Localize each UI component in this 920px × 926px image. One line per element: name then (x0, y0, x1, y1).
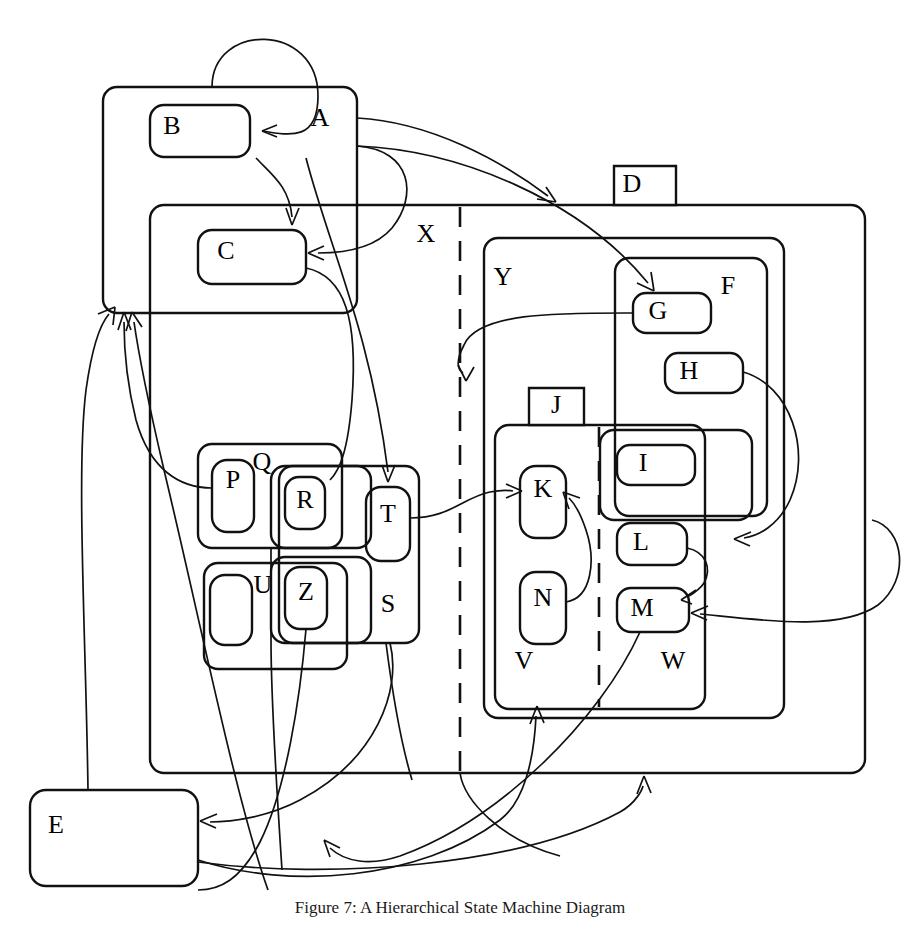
state-G[interactable]: G (633, 293, 711, 333)
edge-B-to-C (256, 158, 299, 225)
edge-layer (82, 39, 900, 890)
figure-root: D X Y F J V W A (0, 0, 920, 926)
state-G-label: G (649, 296, 668, 325)
edge-E-to-W (198, 706, 544, 876)
edge-R-down (386, 643, 412, 780)
state-O-label: P (226, 465, 240, 494)
state-C[interactable]: C (198, 230, 306, 284)
state-C-body[interactable] (198, 230, 306, 284)
edge-E-to-A-path (82, 314, 109, 790)
state-N[interactable]: N (520, 572, 566, 644)
state-U[interactable]: Z (285, 567, 327, 629)
state-S[interactable]: T (366, 487, 410, 561)
state-E[interactable]: E (30, 790, 198, 886)
state-M-label: M (630, 593, 653, 622)
edge-S-to-K (410, 484, 522, 518)
state-G-body[interactable] (633, 293, 711, 333)
state-L-body[interactable] (617, 523, 687, 565)
state-I-label: I (639, 448, 648, 477)
state-container-I-body[interactable] (600, 430, 752, 520)
edge-A-to-S-arrowhead (382, 465, 395, 482)
figure-caption: Figure 7: A Hierarchical State Machine D… (0, 898, 920, 918)
edge-E-to-A (82, 307, 115, 790)
edge-S-to-K-path (410, 490, 513, 518)
edge-E-to-D (198, 776, 651, 869)
state-J[interactable]: J V W (495, 388, 705, 709)
edge-A-to-G-arrowhead (637, 272, 654, 291)
edge-C-to-Q-path (306, 268, 353, 480)
state-T-label: U (254, 570, 273, 599)
edge-N-to-K (563, 492, 591, 602)
edge-C-to-Q (306, 268, 353, 480)
edge-Q-container-down-path (271, 548, 282, 870)
edge-R-down-path (386, 643, 412, 780)
region-X-label: W (661, 646, 686, 675)
edge-E-to-D-path (198, 786, 643, 869)
edge-Y-down (460, 773, 560, 856)
edge-M-to-U (324, 632, 640, 862)
state-V[interactable] (210, 575, 252, 645)
state-N-label: N (534, 583, 553, 612)
state-I-body[interactable] (617, 445, 695, 485)
state-R-label: S (381, 589, 395, 618)
edge-outer-to-M-path (700, 520, 900, 622)
state-Q-label: R (296, 485, 314, 514)
state-J-label: J (551, 390, 561, 419)
edge-A-to-Z-region-path (357, 118, 548, 196)
state-H-body[interactable] (665, 353, 743, 393)
edge-Y-down-path (460, 773, 560, 856)
state-I[interactable]: I (617, 445, 695, 485)
edge-N-to-K-path (566, 498, 591, 602)
statechart-diagram: D X Y F J V W A (0, 0, 920, 926)
state-P-label: Q (253, 447, 272, 476)
region-W-label: V (515, 646, 534, 675)
state-K-label: K (534, 474, 553, 503)
region-Y-label: X (417, 219, 436, 248)
state-L[interactable]: L (617, 523, 687, 565)
state-V-body[interactable] (210, 575, 252, 645)
edge-A-to-C-path (318, 146, 407, 253)
edge-T-to-A-arrowhead (126, 312, 142, 331)
state-H[interactable]: H (665, 353, 743, 393)
edge-H-to-L-arrowhead (734, 532, 751, 546)
state-S-label: T (380, 499, 396, 528)
state-Q[interactable]: R (285, 477, 325, 529)
state-U-label-real: Z (298, 577, 314, 606)
state-L-label: L (633, 527, 649, 556)
edge-T-to-A-path (134, 322, 268, 890)
state-B-label: B (163, 111, 180, 140)
state-A-label: A (311, 103, 330, 132)
state-container-I[interactable] (600, 430, 752, 520)
edge-Q-container-down (271, 548, 282, 870)
state-K[interactable]: K (520, 466, 566, 538)
edge-E-to-W-path (198, 716, 536, 876)
state-C-label: C (217, 236, 234, 265)
state-F-label: F (721, 271, 735, 300)
state-H-label: H (680, 356, 699, 385)
edge-R-to-E (200, 643, 393, 828)
state-B[interactable]: B (150, 105, 250, 157)
edge-E-to-D-arrowhead (637, 776, 651, 794)
state-D-label: D (623, 169, 642, 198)
state-M[interactable]: M (617, 588, 689, 632)
edge-A-to-S (306, 158, 395, 482)
state-O[interactable]: P (212, 460, 254, 532)
edge-outer-to-M (691, 520, 900, 622)
edge-A-to-B-arrowhead (262, 125, 277, 137)
edge-R-to-E-arrowhead (200, 814, 217, 828)
state-E-label: E (48, 810, 64, 839)
state-Z-label: Y (494, 262, 513, 291)
